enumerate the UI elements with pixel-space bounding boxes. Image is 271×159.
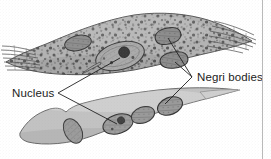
lower-neuron-tail [200,90,240,99]
label-negri-bodies: Negri bodies [197,72,263,84]
figure-canvas: Nucleus Negri bodies [0,0,271,159]
page-margin-rule [262,0,263,159]
label-nucleus: Nucleus [12,88,54,100]
